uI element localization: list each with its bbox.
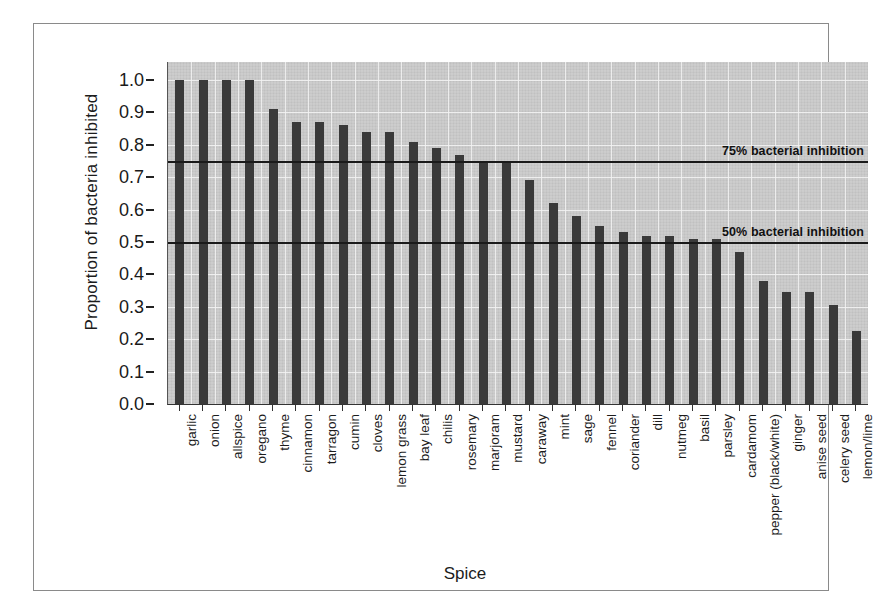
gridline-vertical bbox=[448, 62, 449, 404]
x-tick-mark bbox=[202, 404, 203, 411]
y-tick-label: 1.0 bbox=[119, 70, 144, 91]
x-tick-label: basil bbox=[697, 414, 712, 442]
x-tick-mark bbox=[505, 404, 506, 411]
x-tick-mark bbox=[692, 404, 693, 411]
y-axis-ticks: 1.00.90.80.70.60.50.40.30.20.10.0 bbox=[94, 62, 154, 404]
x-tick-mark bbox=[552, 404, 553, 411]
gridline-vertical bbox=[378, 62, 379, 404]
bar[interactable] bbox=[269, 109, 278, 404]
x-tick-mark bbox=[319, 404, 320, 411]
y-tick-mark bbox=[146, 403, 154, 405]
bar[interactable] bbox=[665, 236, 674, 404]
y-tick-label: 0.5 bbox=[119, 232, 144, 253]
y-tick-label: 0.1 bbox=[119, 361, 144, 382]
gridline-vertical bbox=[215, 62, 216, 404]
gridline-vertical bbox=[401, 62, 402, 404]
bar[interactable] bbox=[852, 331, 861, 404]
x-tick-mark bbox=[529, 404, 530, 411]
x-tick-label: onion bbox=[207, 414, 222, 447]
bar[interactable] bbox=[829, 305, 838, 404]
bar[interactable] bbox=[502, 161, 511, 404]
x-tick-mark bbox=[249, 404, 250, 411]
figure-frame: Proportion of bacteria inhibited 1.00.90… bbox=[33, 23, 829, 591]
gridline-vertical bbox=[541, 62, 542, 404]
x-tick-mark bbox=[739, 404, 740, 411]
gridline-vertical bbox=[635, 62, 636, 404]
bar[interactable] bbox=[409, 142, 418, 404]
x-axis-title: Spice bbox=[34, 564, 877, 584]
plot-area: 75% bacterial inhibition50% bacterial in… bbox=[167, 62, 868, 405]
x-tick-label: caraway bbox=[534, 414, 549, 464]
bar[interactable] bbox=[315, 122, 324, 404]
bar[interactable] bbox=[805, 292, 814, 404]
x-tick-mark bbox=[272, 404, 273, 411]
bar[interactable] bbox=[572, 216, 581, 404]
x-tick-mark bbox=[365, 404, 366, 411]
bar[interactable] bbox=[619, 232, 628, 404]
y-tick-label: 0.9 bbox=[119, 102, 144, 123]
x-tick-label: nutmeg bbox=[674, 414, 689, 459]
bar[interactable] bbox=[339, 125, 348, 404]
bar[interactable] bbox=[689, 239, 698, 404]
x-tick-mark bbox=[785, 404, 786, 411]
gridline-vertical bbox=[611, 62, 612, 404]
gridline-vertical bbox=[588, 62, 589, 404]
x-tick-label: bay leaf bbox=[417, 414, 432, 461]
x-tick-mark bbox=[435, 404, 436, 411]
x-tick-mark bbox=[599, 404, 600, 411]
x-tick-mark bbox=[412, 404, 413, 411]
x-tick-label: anise seed bbox=[814, 414, 829, 479]
bar[interactable] bbox=[525, 180, 534, 404]
y-tick-mark bbox=[146, 306, 154, 308]
gridline-vertical bbox=[261, 62, 262, 404]
x-tick-label: oregano bbox=[254, 414, 269, 464]
bar[interactable] bbox=[712, 239, 721, 404]
gridline-vertical bbox=[681, 62, 682, 404]
x-tick-label: coriander bbox=[627, 414, 642, 470]
bar[interactable] bbox=[782, 292, 791, 404]
x-tick-label: garlic bbox=[184, 414, 199, 446]
y-tick-label: 0.3 bbox=[119, 296, 144, 317]
bar[interactable] bbox=[549, 203, 558, 404]
x-tick-mark bbox=[295, 404, 296, 411]
x-tick-label: sage bbox=[580, 414, 595, 443]
bar[interactable] bbox=[432, 148, 441, 404]
75-percent-line bbox=[168, 161, 868, 163]
50-percent-line-label: 50% bacterial inhibition bbox=[722, 225, 864, 242]
bar[interactable] bbox=[642, 236, 651, 404]
gridline-vertical bbox=[471, 62, 472, 404]
x-tick-label: pepper (black/white) bbox=[767, 414, 782, 536]
bar[interactable] bbox=[759, 281, 768, 404]
x-tick-label: fennel bbox=[604, 414, 619, 451]
bar[interactable] bbox=[292, 122, 301, 404]
x-tick-mark bbox=[342, 404, 343, 411]
bar[interactable] bbox=[362, 132, 371, 404]
x-tick-label: rosemary bbox=[464, 414, 479, 470]
x-tick-label: marjoram bbox=[487, 414, 502, 471]
x-axis-ticks bbox=[167, 404, 867, 412]
x-tick-label: lemon grass bbox=[394, 414, 409, 488]
y-tick-label: 0.6 bbox=[119, 199, 144, 220]
gridline-vertical bbox=[518, 62, 519, 404]
x-tick-mark bbox=[459, 404, 460, 411]
bar[interactable] bbox=[595, 226, 604, 404]
bar[interactable] bbox=[735, 252, 744, 404]
gridline-vertical bbox=[191, 62, 192, 404]
bar[interactable] bbox=[385, 132, 394, 404]
gridline-vertical bbox=[495, 62, 496, 404]
y-tick-label: 0.4 bbox=[119, 264, 144, 285]
x-tick-label: mustard bbox=[510, 414, 525, 463]
x-tick-label: dill bbox=[650, 414, 665, 431]
y-tick-mark bbox=[146, 176, 154, 178]
50-percent-line bbox=[168, 242, 868, 244]
y-tick-mark bbox=[146, 144, 154, 146]
gridline-vertical bbox=[425, 62, 426, 404]
bar[interactable] bbox=[479, 161, 488, 404]
gridline-vertical bbox=[285, 62, 286, 404]
x-tick-label: cinnamon bbox=[300, 414, 315, 473]
y-tick-mark bbox=[146, 371, 154, 373]
gridline-vertical bbox=[238, 62, 239, 404]
y-tick-mark bbox=[146, 79, 154, 81]
x-tick-mark bbox=[179, 404, 180, 411]
bar[interactable] bbox=[455, 155, 464, 404]
